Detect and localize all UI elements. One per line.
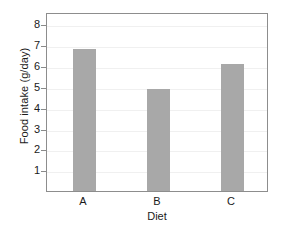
bar-c [221, 64, 244, 191]
y-axis-tick-labels: 12345678 [26, 0, 40, 229]
x-axis-tick-label: B [142, 195, 172, 208]
y-axis-tick-label: 3 [26, 124, 40, 135]
plot-area [46, 13, 268, 192]
gridline [47, 26, 267, 27]
x-axis-tick-label: A [68, 195, 98, 208]
x-axis-tick-label: C [216, 195, 246, 208]
gridline [47, 47, 267, 48]
bar-a [73, 49, 96, 191]
y-axis-tick-label: 1 [26, 165, 40, 176]
y-axis-tick-label: 4 [26, 103, 40, 114]
y-axis-tick-label: 2 [26, 144, 40, 155]
x-axis-title: Diet [46, 210, 268, 223]
y-axis-tick-label: 6 [26, 61, 40, 72]
bar-chart-figure: Food intake (g/day) 12345678 ABC Diet [0, 0, 282, 229]
bar-b [147, 89, 170, 191]
y-axis-tick-label: 7 [26, 40, 40, 51]
x-axis-tick-labels: ABC [46, 195, 268, 211]
y-axis-tick-label: 8 [26, 19, 40, 30]
y-axis-tick-label: 5 [26, 82, 40, 93]
